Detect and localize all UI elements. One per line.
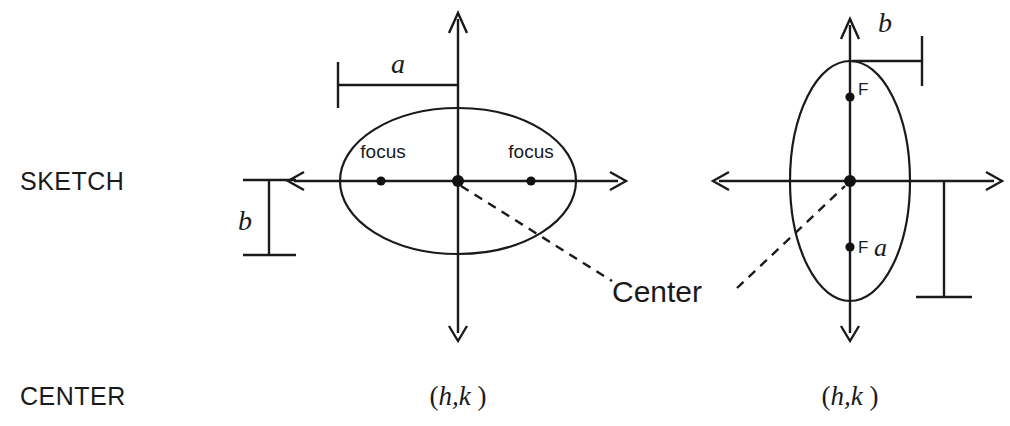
horizontal-ellipse-diagram: a b focus focus	[238, 13, 626, 341]
focus-label-upper: F	[858, 80, 868, 99]
ellipse-diagram-canvas: SKETCH CENTER a	[0, 0, 1010, 426]
center-point-vertical-panel	[844, 175, 856, 187]
focus-point-lower	[845, 242, 854, 251]
vertical-ellipse-diagram: b F F a	[713, 7, 1002, 341]
measurement-label-a-right: a	[874, 233, 887, 262]
row-label-sketch: SKETCH	[20, 167, 124, 195]
measurement-b-vertical-panel: b	[852, 7, 922, 86]
ellipse-reference-figure: SKETCH CENTER a	[0, 0, 1010, 426]
measurement-b-horizontal-panel: b	[238, 180, 296, 255]
measurement-a-vertical-panel	[916, 181, 972, 297]
measurement-label-a-left: a	[391, 48, 405, 79]
center-coordinates-left: (h,k )	[430, 381, 487, 411]
focus-point-right	[526, 176, 535, 185]
row-label-center: CENTER	[20, 382, 126, 410]
focus-label-lower: F	[858, 238, 868, 257]
measurement-a-horizontal-panel: a	[338, 48, 458, 108]
center-callout-label: Center	[612, 275, 702, 308]
center-point-horizontal-panel	[452, 175, 464, 187]
focus-point-left	[376, 176, 385, 185]
center-leader-line-left	[461, 186, 612, 281]
focus-label-left: focus	[360, 141, 405, 162]
x-axis-vertical-panel	[713, 172, 1002, 190]
center-coordinates-right: (h,k )	[822, 381, 879, 411]
measurement-label-b-left: b	[238, 205, 252, 236]
focus-label-right: focus	[508, 141, 553, 162]
focus-point-upper	[845, 92, 854, 101]
measurement-label-b-right: b	[878, 7, 892, 38]
